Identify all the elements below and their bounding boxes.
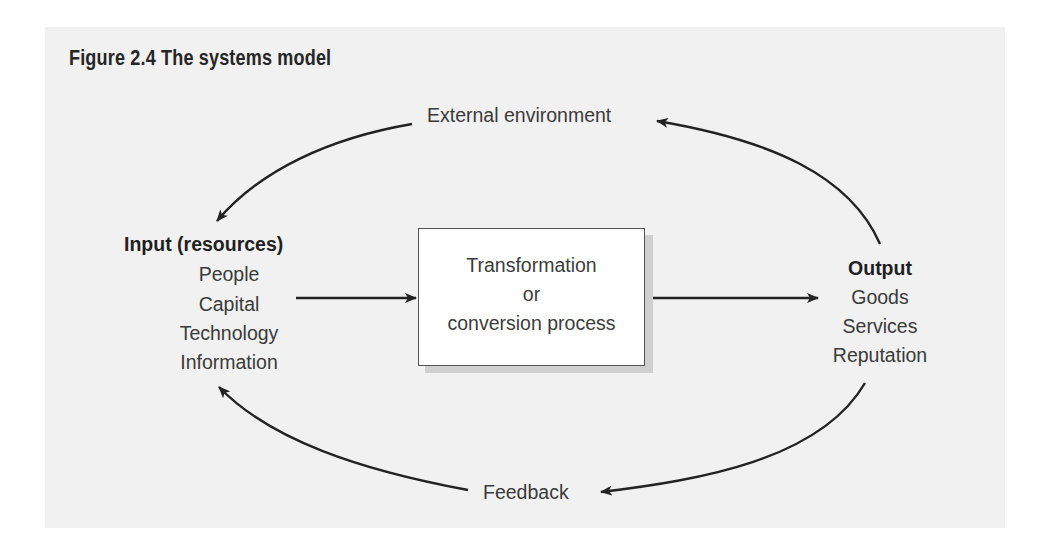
arrow-environment-to-input: [217, 124, 412, 221]
arrow-output-to-feedback: [601, 383, 865, 492]
external-environment-label: External environment: [427, 104, 611, 127]
arrow-feedback-to-input: [219, 387, 468, 490]
process-line: Transformation: [419, 251, 644, 279]
process-box: Transformation or conversion process: [418, 228, 645, 366]
input-item: People: [183, 263, 275, 286]
input-item: Capital: [183, 293, 275, 316]
feedback-label: Feedback: [483, 481, 569, 504]
input-item: Technology: [158, 322, 300, 345]
process-line: or: [419, 280, 644, 308]
output-item: Reputation: [818, 344, 942, 367]
process-line: conversion process: [419, 309, 644, 337]
arrow-output-to-environment: [657, 121, 880, 244]
input-item: Information: [158, 351, 300, 374]
output-item: Services: [830, 315, 930, 338]
input-heading: Input (resources): [124, 233, 283, 256]
output-heading: Output: [830, 257, 930, 280]
output-item: Goods: [830, 286, 930, 309]
